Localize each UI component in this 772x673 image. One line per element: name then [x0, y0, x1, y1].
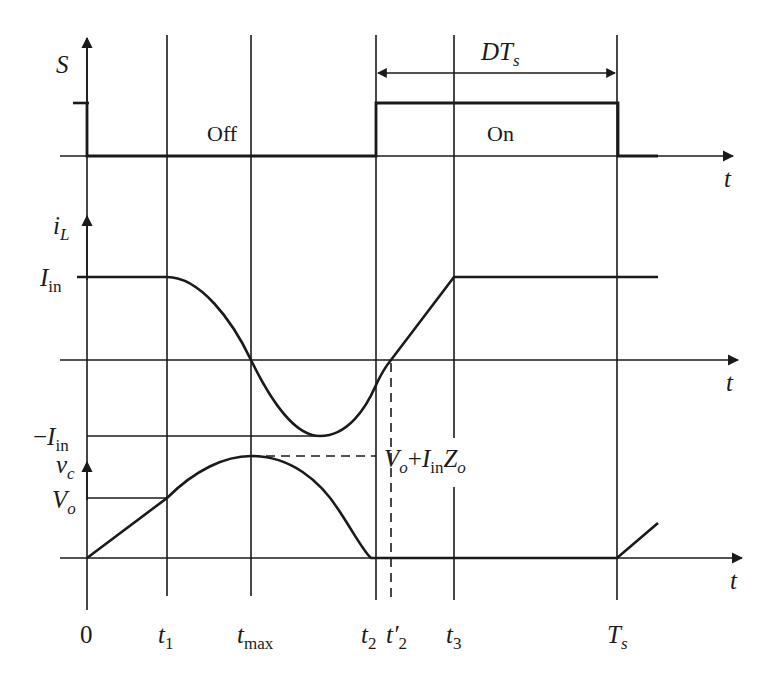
on-label: On	[487, 123, 514, 145]
peak-voltage-label: Vo+IinZo	[384, 446, 466, 476]
s-time-label: t	[724, 166, 731, 191]
s-axis-label: S	[56, 52, 69, 77]
tick-label-t3: t3	[446, 622, 461, 652]
vo-level-label: Vo	[52, 487, 76, 517]
tick-label-t1: t1	[158, 622, 173, 652]
vc-time-label: t	[730, 568, 737, 593]
off-label: Off	[207, 123, 237, 145]
s-waveform	[87, 103, 658, 156]
il-axis-label: iL	[53, 213, 69, 243]
il-waveform	[77, 277, 658, 436]
vc-waveform	[87, 456, 658, 558]
il-time-label: t	[726, 370, 733, 395]
vc-axis-label: vc	[56, 452, 75, 482]
duty-label: DTs	[481, 39, 520, 69]
neg-iin-level-label: −Iin	[33, 424, 69, 454]
tick-label-t2prime: t′2	[386, 622, 407, 652]
tick-label-ts: Ts	[607, 622, 628, 652]
iin-level-label: Iin	[40, 265, 62, 295]
tick-label-t2: t2	[361, 622, 376, 652]
waveform-diagram	[0, 0, 772, 673]
tick-label-0: 0	[80, 622, 93, 647]
tick-label-tmax: tmax	[237, 622, 273, 652]
